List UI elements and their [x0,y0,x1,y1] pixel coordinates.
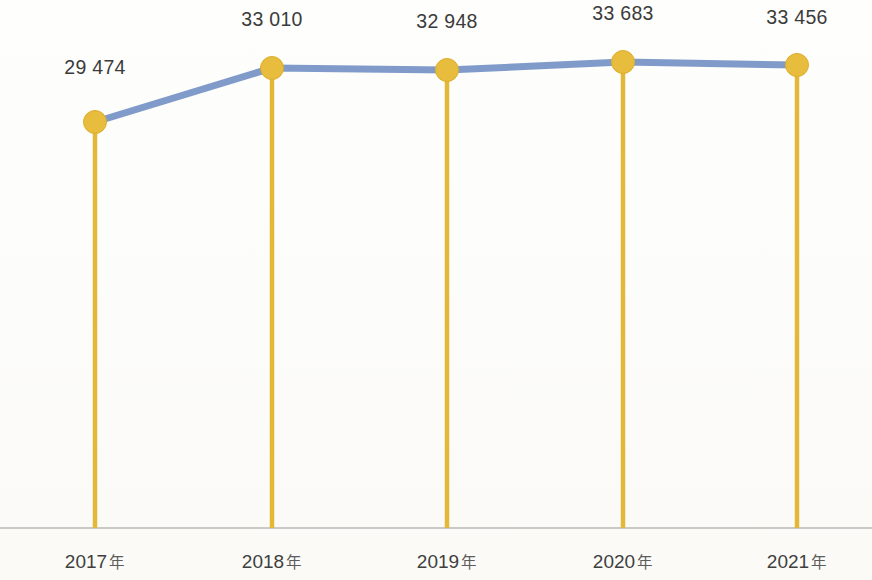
chart-container: 29 474 33 010 32 948 33 683 33 456 2017年… [0,0,872,580]
x-axis-label-year-number: 2020 [593,551,635,572]
data-point-marker[interactable] [786,54,809,77]
x-axis-label-year-number: 2021 [767,551,809,572]
x-axis-label-year-number: 2018 [242,551,284,572]
x-axis-label-2017: 2017年 [65,550,125,573]
data-label: 33 010 [241,8,302,31]
data-point-marker[interactable] [261,57,284,80]
x-axis-label-year-suffix: 年 [461,554,477,571]
data-label: 33 683 [592,2,653,25]
x-axis-label-year-suffix: 年 [637,554,653,571]
x-axis-label-year-number: 2019 [417,551,459,572]
x-axis-label-2020: 2020年 [593,550,653,573]
drop-line-group [95,62,797,528]
line-chart-plot-area [0,0,872,580]
x-axis-label-2018: 2018年 [242,550,302,573]
data-point-marker[interactable] [612,51,635,74]
data-label: 29 474 [64,56,125,79]
x-axis-label-year-number: 2017 [65,551,107,572]
data-label: 32 948 [416,10,477,33]
data-point-marker[interactable] [84,111,107,134]
x-axis-label-year-suffix: 年 [811,554,827,571]
x-axis-label-year-suffix: 年 [109,554,125,571]
x-axis-label-2021: 2021年 [767,550,827,573]
x-axis-label-year-suffix: 年 [286,554,302,571]
data-label: 33 456 [766,6,827,29]
x-axis-label-2019: 2019年 [417,550,477,573]
data-point-marker[interactable] [436,59,459,82]
